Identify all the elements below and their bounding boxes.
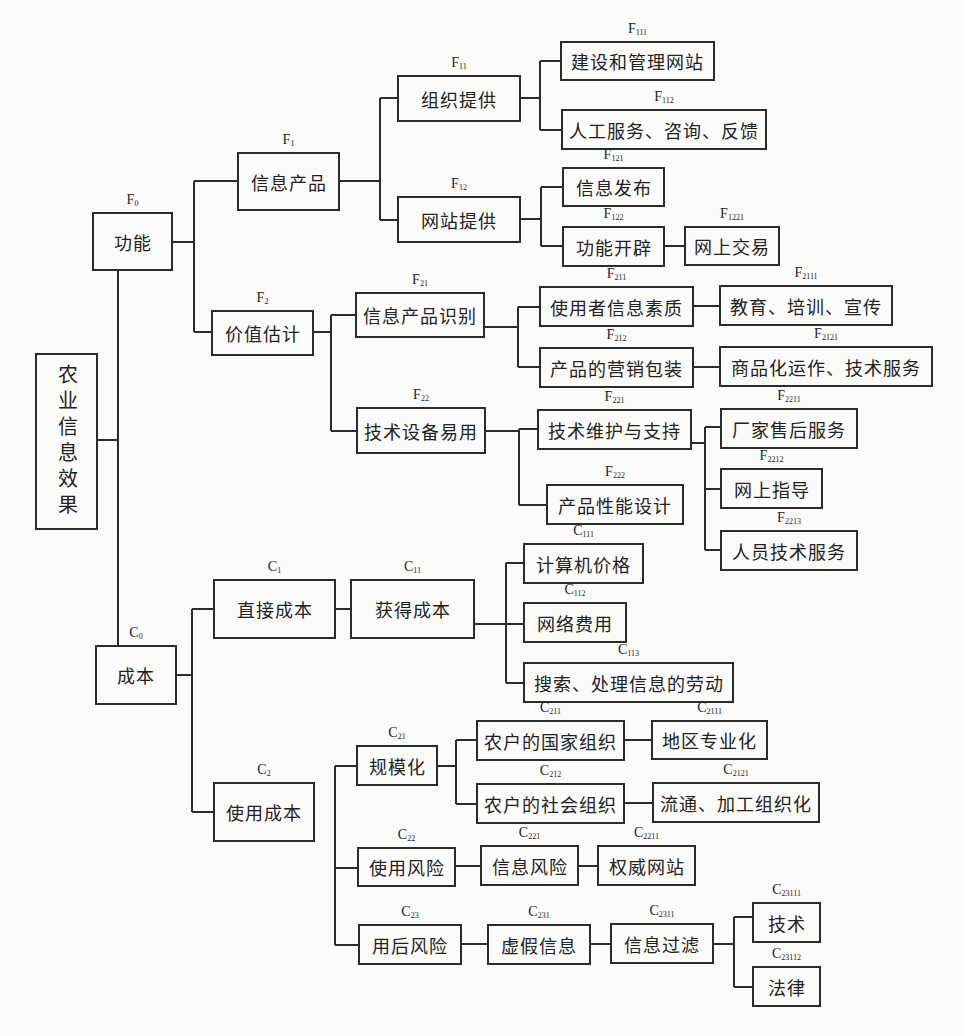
code-letter: F — [607, 327, 615, 342]
code-letter: F — [777, 388, 785, 403]
root-node: 农业信息效果 — [35, 353, 98, 530]
code-subscript: 22 — [421, 394, 429, 403]
code-subscript: 23 — [411, 911, 419, 920]
node-code: F1 — [283, 132, 295, 148]
code-subscript: 21 — [420, 279, 428, 288]
node-c113: 搜索、处理信息的劳动 — [523, 662, 734, 703]
code-subscript: 113 — [627, 649, 639, 658]
node-c111: 计算机价格 — [523, 543, 644, 584]
node-code: F111 — [628, 21, 647, 37]
node-code: F211 — [607, 266, 627, 282]
node-c23112: 法律 — [752, 966, 821, 1007]
node-code: F12 — [451, 176, 467, 192]
node-label: 技术设备易用 — [364, 418, 478, 444]
node-code: F2121 — [814, 326, 838, 342]
node-f2121: 商品化运作、技术服务 — [719, 346, 933, 387]
code-subscript: 211 — [549, 707, 561, 716]
node-f11: 组织提供 — [397, 75, 521, 122]
code-subscript: 2121 — [733, 769, 749, 778]
node-f122: 功能开辟 — [562, 226, 665, 267]
node-label: 用后风险 — [372, 932, 448, 958]
code-subscript: 11 — [459, 62, 467, 71]
code-letter: C — [268, 559, 277, 574]
node-f2111: 教育、培训、宣传 — [719, 285, 893, 326]
hierarchy-diagram: 农业信息效果 功能F0信息产品F1组织提供F11网站提供F12建设和管理网站F1… — [0, 0, 963, 1036]
node-code: F221 — [605, 389, 625, 405]
node-f212: 产品的营销包装 — [539, 347, 694, 388]
node-f22: 技术设备易用 — [356, 407, 486, 454]
node-label: 地区专业化 — [662, 727, 757, 753]
code-subscript: 11 — [413, 566, 421, 575]
code-letter: C — [401, 904, 410, 919]
code-subscript: 2211 — [643, 832, 659, 841]
node-code: F0 — [127, 192, 139, 208]
node-label: 信息过滤 — [624, 931, 700, 957]
code-letter: F — [605, 464, 613, 479]
node-f21: 信息产品识别 — [355, 292, 485, 338]
code-letter: C — [723, 762, 732, 777]
node-code: F122 — [604, 206, 624, 222]
code-letter: C — [129, 625, 138, 640]
node-code: C212 — [540, 763, 561, 779]
code-letter: F — [654, 89, 662, 104]
node-c0: 成本 — [95, 645, 177, 705]
code-subscript: 221 — [612, 396, 624, 405]
code-letter: C — [618, 642, 627, 657]
node-f111: 建设和管理网站 — [560, 41, 715, 81]
node-label: 组织提供 — [421, 86, 497, 112]
node-code: F212 — [607, 327, 627, 343]
node-label: 产品的营销包装 — [550, 355, 683, 381]
node-label: 虚假信息 — [501, 932, 577, 958]
code-letter: F — [604, 147, 612, 162]
code-letter: C — [540, 763, 549, 778]
node-label: 使用者信息素质 — [550, 294, 683, 320]
code-subscript: 122 — [611, 213, 623, 222]
node-label: 技术 — [768, 910, 806, 936]
node-label: 网上交易 — [694, 233, 770, 259]
node-f2212: 网上指导 — [720, 468, 823, 509]
code-letter: F — [605, 389, 613, 404]
node-code: F121 — [604, 147, 624, 163]
node-c221: 信息风险 — [480, 845, 579, 886]
node-f1: 信息产品 — [237, 152, 340, 211]
code-letter: C — [540, 700, 549, 715]
node-code: C23111 — [772, 882, 801, 898]
node-code: F2211 — [777, 388, 801, 404]
node-code: F1221 — [720, 206, 744, 222]
node-label: 直接成本 — [237, 596, 313, 622]
node-c231: 虚假信息 — [487, 924, 591, 965]
node-f2: 价值估计 — [211, 310, 314, 356]
node-c112: 网络费用 — [523, 602, 627, 643]
code-letter: C — [649, 903, 658, 918]
code-letter: F — [451, 55, 459, 70]
node-f221: 技术维护与支持 — [537, 409, 692, 450]
code-letter: F — [814, 326, 822, 341]
node-label: 法律 — [768, 974, 806, 1000]
code-subscript: 2 — [267, 769, 271, 778]
code-subscript: 23111 — [781, 889, 800, 898]
node-label: 网上指导 — [734, 476, 810, 502]
node-label: 规模化 — [369, 753, 426, 779]
node-code: C2121 — [723, 762, 748, 778]
node-label: 教育、培训、宣传 — [730, 293, 882, 319]
code-letter: C — [257, 762, 266, 777]
node-code: C0 — [129, 625, 142, 641]
node-code: C2211 — [634, 825, 659, 841]
node-code: F2 — [257, 290, 269, 306]
node-c212: 农户的社会组织 — [476, 783, 625, 824]
node-label: 技术维护与支持 — [548, 417, 681, 443]
node-c21: 规模化 — [356, 745, 438, 786]
node-label: 人工服务、咨询、反馈 — [569, 117, 759, 143]
code-subscript: 2213 — [785, 517, 801, 526]
node-c2111: 地区专业化 — [651, 720, 768, 760]
code-letter: F — [412, 272, 420, 287]
code-subscript: 2111 — [802, 272, 817, 281]
node-f1221: 网上交易 — [684, 226, 780, 266]
node-label: 权威网站 — [609, 853, 685, 879]
node-f222: 产品性能设计 — [546, 484, 684, 525]
node-code: F22 — [413, 387, 429, 403]
node-code: F2111 — [794, 265, 817, 281]
node-label: 农户的国家组织 — [484, 728, 617, 754]
node-label: 产品性能设计 — [558, 492, 672, 518]
node-code: C11 — [404, 559, 421, 575]
